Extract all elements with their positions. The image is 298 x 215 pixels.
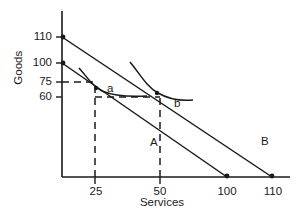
budget-line-b-y-endpoint — [61, 35, 66, 40]
chart-figure: 110 100 75 60 25 50 100 110 Goods Servic… — [0, 0, 298, 215]
tangency-label-a: a — [107, 83, 113, 95]
budget-line-b — [62, 37, 272, 177]
budget-line-b-x-endpoint — [270, 174, 275, 179]
y-axis-title: Goods — [13, 42, 25, 94]
budget-label-b: B — [261, 136, 269, 148]
budget-line-a-x-endpoint — [225, 174, 230, 179]
x-tick-label-25: 25 — [83, 186, 109, 198]
budget-label-a: A — [150, 137, 158, 149]
tangency-point-b — [155, 91, 159, 95]
x-tick-label-110: 110 — [257, 186, 289, 198]
budget-line-a-y-endpoint — [61, 61, 66, 66]
x-axis-title: Services — [132, 197, 192, 209]
indifference-curve-b — [130, 62, 193, 100]
x-tick-label-100: 100 — [211, 186, 243, 198]
tangency-label-b: b — [174, 98, 180, 110]
